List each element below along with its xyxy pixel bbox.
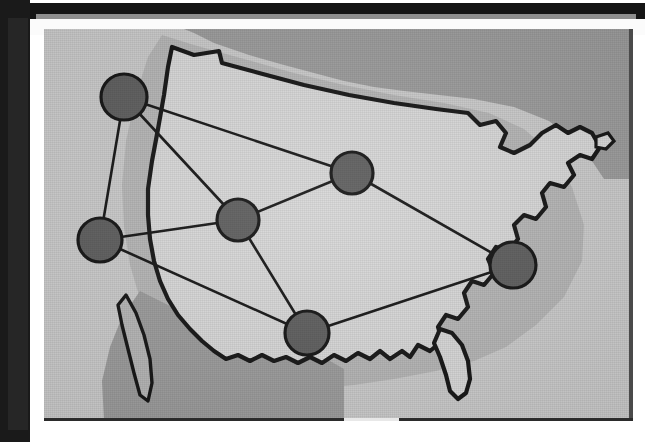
us-network-map [44, 29, 633, 421]
map-panel-right-edge [629, 29, 633, 421]
network-node-central[interactable] [217, 199, 259, 241]
map-panel [44, 29, 633, 421]
network-node-east[interactable] [490, 242, 536, 288]
page-binding-inner [8, 18, 28, 430]
figure-page [0, 0, 645, 442]
page-binding-edge [0, 0, 30, 442]
network-node-west[interactable] [78, 218, 122, 262]
network-node-south[interactable] [285, 311, 329, 355]
network-node-north[interactable] [331, 152, 373, 194]
map-panel-bottom-rule [44, 418, 633, 421]
map-panel-rule-gap [344, 418, 399, 421]
network-node-nw[interactable] [101, 74, 147, 120]
